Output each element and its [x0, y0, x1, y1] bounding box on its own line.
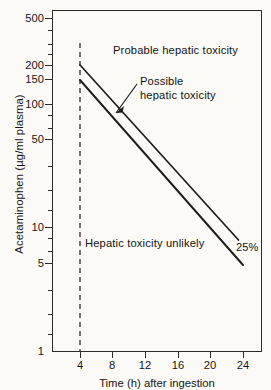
x-tick-8 — [112, 352, 113, 358]
x-tick-label-24: 24 — [237, 359, 249, 371]
annotation-probable-hepatic-toxicity: Probable hepatic toxicity — [113, 43, 238, 57]
x-tick-label-8: 8 — [109, 359, 115, 371]
annotation-25-percent: 25% — [236, 240, 258, 254]
x-tick-16 — [178, 352, 179, 358]
x-tick-label-20: 20 — [204, 359, 216, 371]
x-tick-label-16: 16 — [172, 359, 184, 371]
x-axis-title: Time (h) after ingestion — [52, 377, 262, 389]
possible-toxicity-arrow-shaft — [116, 84, 137, 113]
annotation-possible-line1: Possible — [140, 74, 216, 88]
x-tick-20 — [210, 352, 211, 358]
x-tick-label-4: 4 — [77, 359, 83, 371]
x-tick-12 — [145, 352, 146, 358]
nomogram-figure: Acetaminophen (µg/ml plasma) 500 200 150… — [0, 0, 271, 390]
x-tick-label-12: 12 — [139, 359, 151, 371]
plot-canvas — [0, 0, 271, 390]
annotation-possible-line2: hepatic toxicity — [140, 88, 216, 102]
x-tick-24 — [243, 352, 244, 358]
annotation-hepatic-toxicity-unlikely: Hepatic toxicity unlikely — [85, 236, 204, 250]
annotation-possible-hepatic-toxicity: Possible hepatic toxicity — [140, 74, 216, 103]
x-tick-4 — [80, 352, 81, 358]
